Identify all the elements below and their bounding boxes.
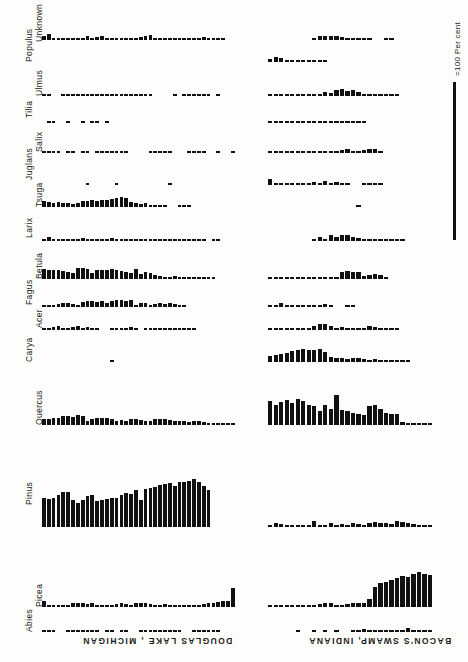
bar (168, 630, 172, 632)
bar (334, 395, 338, 425)
bar (362, 415, 366, 425)
bar (110, 630, 114, 632)
bar (274, 405, 278, 425)
bar (66, 630, 70, 632)
bar (395, 414, 399, 425)
bar (42, 419, 46, 425)
bar (378, 630, 382, 632)
bar (395, 630, 399, 632)
bar-row-abies (42, 536, 236, 632)
bar (212, 423, 216, 425)
bar (187, 422, 191, 425)
bar (406, 423, 410, 425)
bar (129, 419, 133, 425)
bar (356, 630, 360, 632)
bar-row-quercus (42, 329, 236, 425)
bar (221, 423, 225, 425)
bar (212, 630, 216, 632)
legend-scale-bar (453, 82, 456, 240)
legend: =100 Per cent (438, 20, 466, 220)
bar (197, 630, 201, 632)
bar (384, 630, 388, 632)
bar (216, 630, 220, 632)
bar (428, 423, 432, 425)
bar (86, 421, 90, 425)
bar (323, 405, 327, 425)
bar (351, 413, 355, 425)
bar (373, 630, 377, 632)
bar (57, 418, 61, 425)
bar (197, 421, 201, 425)
bar (400, 422, 404, 425)
bar (100, 418, 104, 425)
bar (202, 630, 206, 632)
bar (411, 423, 415, 425)
bar (323, 630, 327, 632)
bar (124, 630, 128, 632)
taxon-label-text: Carya (24, 337, 34, 362)
bar (279, 402, 283, 425)
taxon-label-text: Populus (24, 28, 34, 62)
bar (90, 630, 94, 632)
bar (406, 628, 410, 632)
bar (216, 423, 220, 425)
bar (61, 416, 65, 425)
bar (411, 630, 415, 632)
bar (76, 630, 80, 632)
site-caption-douglas: DOUGLAS LAKE , MICHIGAN (82, 636, 232, 646)
legend-label: =100 Per cent (453, 22, 462, 76)
bar (301, 401, 305, 425)
bar (168, 420, 172, 425)
bar (178, 630, 182, 632)
bar (207, 630, 211, 632)
bar (373, 405, 377, 425)
bar (362, 629, 366, 632)
bar (139, 630, 143, 632)
bar (153, 419, 157, 425)
bar (192, 421, 196, 425)
bar (329, 409, 333, 425)
bar (202, 422, 206, 425)
bar-row-abies (268, 536, 434, 632)
bar (290, 403, 294, 425)
bar (47, 419, 51, 425)
bar (144, 421, 148, 425)
bar (312, 630, 316, 632)
bar (42, 630, 46, 632)
taxon-label-text: Pinus (24, 482, 34, 505)
bar (367, 630, 371, 632)
bar (95, 630, 99, 632)
bar (318, 411, 322, 425)
bar (285, 400, 289, 425)
bar (76, 415, 80, 425)
bar (296, 630, 300, 632)
bar (153, 630, 157, 632)
bar (163, 419, 167, 425)
bar (378, 409, 382, 425)
bar (356, 414, 360, 425)
bar (178, 421, 182, 425)
bar (52, 418, 56, 425)
taxon-label-text: Abies (24, 609, 34, 632)
bar (231, 423, 235, 425)
bar (90, 419, 94, 425)
pollen-diagram-figure: UnknownPopulusUlmusTiliaSalixJuglansTsug… (0, 0, 468, 662)
taxon-label-text: Tilia (24, 101, 34, 118)
taxon-label-text: Larix (24, 218, 34, 238)
bar (417, 630, 421, 632)
bar (417, 423, 421, 425)
bar (384, 413, 388, 425)
bar (163, 630, 167, 632)
bar (134, 419, 138, 425)
bar (95, 418, 99, 425)
taxon-label-text: Fagus (24, 279, 34, 305)
bar (207, 423, 211, 425)
bar (71, 630, 75, 632)
bar (389, 414, 393, 425)
bar (389, 630, 393, 632)
bar (268, 401, 272, 425)
bar (86, 630, 90, 632)
taxon-label-text: Juglans (24, 148, 34, 180)
bar (334, 630, 338, 632)
bar (110, 419, 114, 425)
